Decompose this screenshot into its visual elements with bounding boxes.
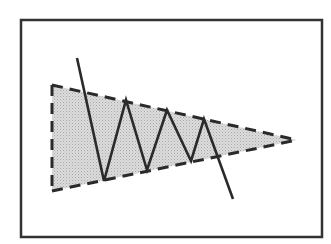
triangle-pattern-diagram [0, 0, 331, 244]
triangle-shaded-area [52, 85, 297, 191]
diagram-canvas [0, 0, 331, 244]
